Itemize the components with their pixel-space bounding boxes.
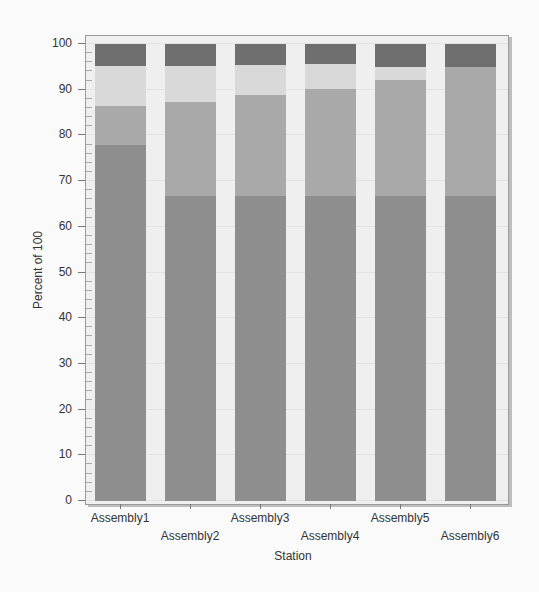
x-tick-mark [470,504,471,509]
bar-segment-1 [165,196,216,501]
minor-tick [86,61,92,62]
minor-tick [86,399,92,400]
bar-segment-3 [165,66,216,102]
bar-segment-2 [445,67,496,196]
bar-segment-4 [235,44,286,65]
bar-assembly2 [165,44,216,501]
minor-tick [86,116,92,117]
y-tick-label: 50 [42,265,72,279]
minor-tick [86,290,92,291]
bar-segment-4 [95,44,146,66]
y-tick-label: 90 [42,82,72,96]
bar-segment-4 [305,44,356,64]
y-tick-mark [78,226,85,227]
bar-segment-3 [375,67,426,80]
bar-assembly3 [235,44,286,501]
minor-tick [86,253,92,254]
bar-segment-2 [235,95,286,196]
minor-tick [86,418,92,419]
y-tick-mark [78,363,85,364]
minor-tick [86,70,92,71]
minor-tick [86,463,92,464]
minor-tick [86,427,92,428]
y-tick-label: 70 [42,173,72,187]
x-tick-mark [400,504,401,509]
y-tick-label: 100 [42,36,72,50]
minor-tick [86,52,92,53]
x-tick-label: Assembly2 [161,529,220,543]
minor-tick [86,436,92,437]
bar-segment-1 [375,196,426,501]
minor-tick [86,244,92,245]
x-tick-label: Assembly3 [231,511,290,525]
minor-tick [86,381,92,382]
minor-tick [86,153,92,154]
minor-tick [86,299,92,300]
minor-tick [86,171,92,172]
minor-tick [86,345,92,346]
y-tick-mark [78,89,85,90]
y-axis-label: Percent of 100 [31,231,45,309]
minor-tick [86,326,92,327]
x-tick-mark [330,504,331,509]
minor-tick-strip [86,36,93,504]
y-tick-mark [78,409,85,410]
y-tick-label: 30 [42,356,72,370]
bar-assembly4 [305,44,356,501]
bar-segment-1 [95,145,146,501]
y-tick-label: 40 [42,310,72,324]
minor-tick [86,198,92,199]
y-tick-label: 80 [42,127,72,141]
minor-tick [86,189,92,190]
minor-tick [86,162,92,163]
minor-tick [86,281,92,282]
bar-segment-3 [235,65,286,95]
minor-tick [86,144,92,145]
y-tick-mark [78,43,85,44]
minor-tick [86,482,92,483]
bar-assembly5 [375,44,426,501]
y-tick-mark [78,317,85,318]
minor-tick [86,107,92,108]
bar-segment-1 [445,196,496,501]
x-tick-label: Assembly5 [371,511,430,525]
minor-tick [86,208,92,209]
bar-segment-3 [95,66,146,106]
y-tick-label: 60 [42,219,72,233]
bar-segment-1 [235,196,286,501]
minor-tick [86,217,92,218]
y-tick-mark [78,500,85,501]
y-tick-label: 10 [42,447,72,461]
minor-tick [86,98,92,99]
minor-tick [86,390,92,391]
minor-tick [86,372,92,373]
y-tick-label: 20 [42,402,72,416]
minor-tick [86,354,92,355]
minor-tick [86,308,92,309]
x-tick-mark [190,504,191,509]
bar-segment-1 [305,196,356,501]
bar-segment-4 [165,44,216,66]
minor-tick [86,262,92,263]
minor-tick [86,125,92,126]
minor-tick [86,491,92,492]
x-tick-mark [260,504,261,509]
bar-segment-2 [305,89,356,196]
minor-tick [86,445,92,446]
minor-tick [86,80,92,81]
bar-segment-2 [95,106,146,144]
x-tick-label: Assembly4 [301,529,360,543]
x-tick-label: Assembly1 [91,511,150,525]
minor-tick [86,235,92,236]
bar-assembly6 [445,44,496,501]
y-tick-mark [78,134,85,135]
plot-area [85,35,509,505]
x-tick-mark [120,504,121,509]
bar-segment-4 [375,44,426,67]
bar-segment-2 [165,102,216,196]
y-tick-mark [78,454,85,455]
x-axis-label: Station [274,549,311,563]
bar-assembly1 [95,44,146,501]
bar-segment-3 [305,64,356,89]
x-tick-label: Assembly6 [441,529,500,543]
